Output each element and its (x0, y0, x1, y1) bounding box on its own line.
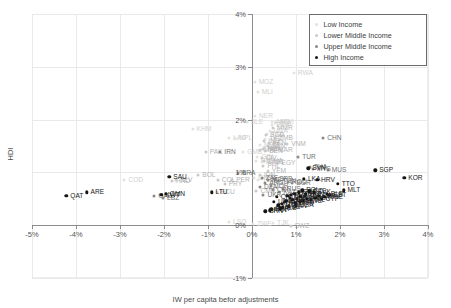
data-point (272, 222, 275, 225)
x-tick-label: -4% (69, 230, 82, 239)
x-tick-label: 0% (247, 230, 258, 239)
x-tick-mark (340, 225, 341, 229)
data-point (219, 151, 222, 154)
y-tick-mark (248, 172, 252, 173)
data-point-label: EGY (282, 160, 296, 167)
x-tick-mark (384, 225, 385, 229)
data-point-label: NPL (239, 134, 252, 141)
legend: Low IncomeLower Middle IncomeUpper Middl… (309, 14, 427, 66)
legend-marker-icon (315, 45, 318, 48)
legend-label: Lower Middle Income (323, 31, 391, 40)
data-point-label: SAU (173, 173, 187, 180)
data-point (256, 91, 259, 94)
data-point-label: MUS (332, 166, 347, 173)
data-point-label: COD (128, 176, 143, 183)
x-tick-label: -3% (113, 230, 126, 239)
data-point (258, 186, 261, 189)
data-point (123, 178, 126, 181)
data-point-label: TTO (342, 181, 355, 188)
data-point-label: ZWE (257, 221, 272, 228)
data-point-label: RWA (298, 70, 313, 77)
x-tick-label: 2% (335, 230, 346, 239)
data-point-label: BOL (202, 172, 215, 179)
x-tick-mark (208, 225, 209, 229)
legend-label: High Income (323, 53, 363, 62)
data-point-label: NGA (267, 145, 281, 152)
data-point-label: TUR (302, 153, 316, 160)
legend-label: Upper Middle Income (323, 42, 391, 51)
data-point-label: ARE (91, 189, 105, 196)
data-point-label: OMN (170, 190, 185, 197)
data-point-label: MLT (348, 187, 361, 194)
data-point (223, 183, 226, 186)
data-point (270, 185, 273, 188)
x-tick-mark (120, 225, 121, 229)
data-point-label: CHN (327, 134, 341, 141)
data-point (262, 193, 265, 196)
data-point (322, 136, 325, 139)
data-point (262, 165, 265, 168)
data-point (256, 155, 259, 158)
legend-item[interactable]: Upper Middle Income (315, 41, 421, 52)
data-point (263, 139, 266, 142)
x-tick-label: 3% (379, 230, 390, 239)
y-tick-mark (248, 278, 252, 279)
y-tick-label: 2% (226, 115, 246, 124)
x-tick-mark (164, 225, 165, 229)
x-tick-label: 1% (291, 230, 302, 239)
data-point (255, 190, 258, 193)
x-tick-label: -2% (157, 230, 170, 239)
data-point (191, 127, 194, 130)
scatter-chart: RWAMOZMLINERSLEKHMMWIAFGBFAETHUGATZALAON… (0, 0, 451, 308)
data-point-label: KOR (408, 174, 422, 181)
data-point-label: SLE (251, 118, 263, 125)
y-tick-label: 1% (226, 168, 246, 177)
data-point-label: LKA (308, 175, 320, 182)
data-point (297, 155, 300, 158)
x-tick-label: -5% (25, 230, 38, 239)
x-tick-mark (76, 225, 77, 229)
data-point-label: MMR (277, 124, 293, 131)
x-tick-label: 4% (423, 230, 434, 239)
y-tick-mark (248, 120, 252, 121)
x-tick-mark (296, 225, 297, 229)
data-point (255, 159, 258, 162)
data-point-label: PRY (229, 181, 242, 188)
data-point (272, 189, 275, 192)
data-point (162, 196, 165, 199)
data-point-label: LTU (216, 189, 228, 196)
data-point (277, 179, 280, 182)
legend-item[interactable]: Low Income (315, 19, 421, 30)
data-point-label: SGP (379, 167, 393, 174)
data-point (253, 80, 256, 83)
data-point (262, 147, 265, 150)
x-tick-mark (428, 225, 429, 229)
x-tick-mark (32, 225, 33, 229)
data-point-label: TJK (277, 220, 289, 227)
data-point (216, 179, 219, 182)
data-point (260, 176, 263, 179)
data-point-label: QAT (70, 192, 83, 199)
x-axis-title: IW per capita befor adjustments (0, 295, 451, 304)
data-point-label: VNM (291, 141, 306, 148)
legend-marker-icon (315, 23, 318, 26)
data-point (153, 195, 156, 198)
legend-item[interactable]: Lower Middle Income (315, 30, 421, 41)
data-point-label: MOZ (259, 78, 274, 85)
data-point (197, 174, 200, 177)
data-point-label: BLR (331, 190, 344, 197)
data-point-label: MLI (262, 89, 273, 96)
data-point (289, 225, 292, 228)
data-point (258, 149, 261, 152)
y-tick-mark (248, 14, 252, 15)
data-point-label: IRN (224, 149, 235, 156)
data-point (272, 126, 275, 129)
data-point (257, 178, 260, 181)
data-point (292, 72, 295, 75)
legend-item[interactable]: High Income (315, 52, 421, 63)
x-tick-mark (252, 225, 253, 229)
legend-marker-icon (315, 34, 318, 37)
data-point (242, 151, 245, 154)
data-point (287, 180, 290, 183)
y-tick-label: 0% (226, 221, 246, 230)
